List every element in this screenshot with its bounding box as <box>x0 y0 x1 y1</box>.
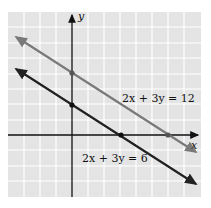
equation-label-12: 2x + 3y = 12 <box>122 92 195 105</box>
coordinate-plane: y x 2x + 3y = 12 2x + 3y = 6 <box>0 0 211 208</box>
point-y-intercept-2 <box>69 102 74 107</box>
point-x-intercept-6 <box>165 132 170 137</box>
y-axis-label: y <box>77 10 85 23</box>
point-x-intercept-3 <box>118 132 123 137</box>
equation-label-6: 2x + 3y = 6 <box>82 152 148 165</box>
point-y-intercept-4 <box>69 70 74 75</box>
x-axis-label: x <box>191 139 198 152</box>
